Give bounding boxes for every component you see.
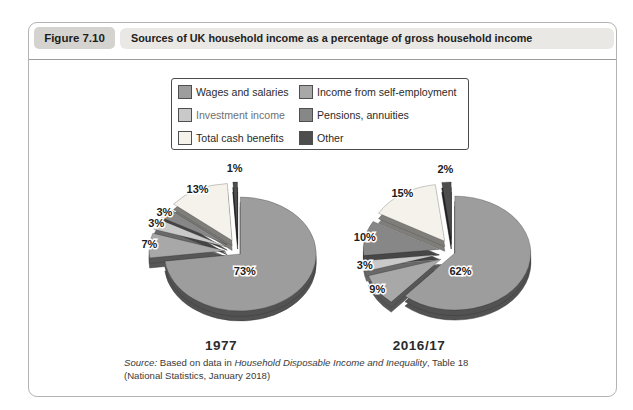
legend-swatch: [178, 108, 192, 122]
header-divider: [29, 59, 616, 60]
pie-2016-17-slice-value-label: 3%: [357, 259, 373, 271]
pie-1977-slice-value-label: 73%: [234, 265, 256, 277]
pie-year-label-1977: 1977: [205, 338, 237, 353]
pie-2016-17-slice-value-label: 62%: [449, 265, 471, 277]
pie-1977-slice-value-label: 1%: [227, 162, 243, 174]
legend-swatch: [178, 131, 192, 145]
pie-1977-slice: [233, 182, 238, 239]
legend-swatch: [178, 85, 192, 99]
legend-item-label: Income from self-employment: [317, 85, 462, 99]
pie-2016-17-slice-value-label: 15%: [391, 187, 413, 199]
source-work-title: Household Disposable Income and Inequali…: [234, 357, 427, 368]
pie-1977-slice-value-label: 3%: [148, 217, 164, 229]
legend-item-label: Wages and salaries: [196, 85, 295, 99]
source-line2: (National Statistics, January 2018): [124, 370, 270, 381]
legend-item-label: Pensions, annuities: [317, 108, 462, 122]
pie-2016-17-slice-value-label: 9%: [369, 283, 385, 295]
legend-swatch: [299, 85, 313, 99]
pie-2016-17-slice-value-label: 10%: [354, 231, 376, 243]
pie-1977-slice-value-label: 13%: [187, 183, 209, 195]
legend-item-label: Total cash benefits: [196, 131, 295, 145]
source-before: Based on data in: [157, 357, 234, 368]
source-after: , Table 18: [427, 357, 468, 368]
legend-item-label: Other: [317, 131, 462, 145]
figure-box: Figure 7.10 Sources of UK household inco…: [28, 22, 617, 397]
legend-box: Wages and salariesIncome from self-emplo…: [171, 78, 469, 150]
legend-item-label: Investment income: [196, 108, 295, 122]
legend-swatch: [299, 131, 313, 145]
pie-1977-slice-value-label: 7%: [141, 238, 157, 250]
pie-year-label-2016-17: 2016/17: [393, 338, 445, 353]
source-note: Source: Based on data in Household Dispo…: [124, 356, 564, 382]
source-prefix: Source:: [124, 357, 157, 368]
pie-2016-17-slice-value-label: 2%: [437, 163, 453, 175]
pie-1977-slice-value-label: 3%: [156, 206, 172, 218]
figure-title: Sources of UK household income as a perc…: [120, 28, 614, 49]
legend-swatch: [299, 108, 313, 122]
page: Figure 7.10 Sources of UK household inco…: [0, 0, 633, 410]
figure-number-badge: Figure 7.10: [34, 27, 115, 49]
pie-charts-canvas: 73%7%3%3%13%1%62%9%3%10%15%2%: [29, 148, 618, 338]
